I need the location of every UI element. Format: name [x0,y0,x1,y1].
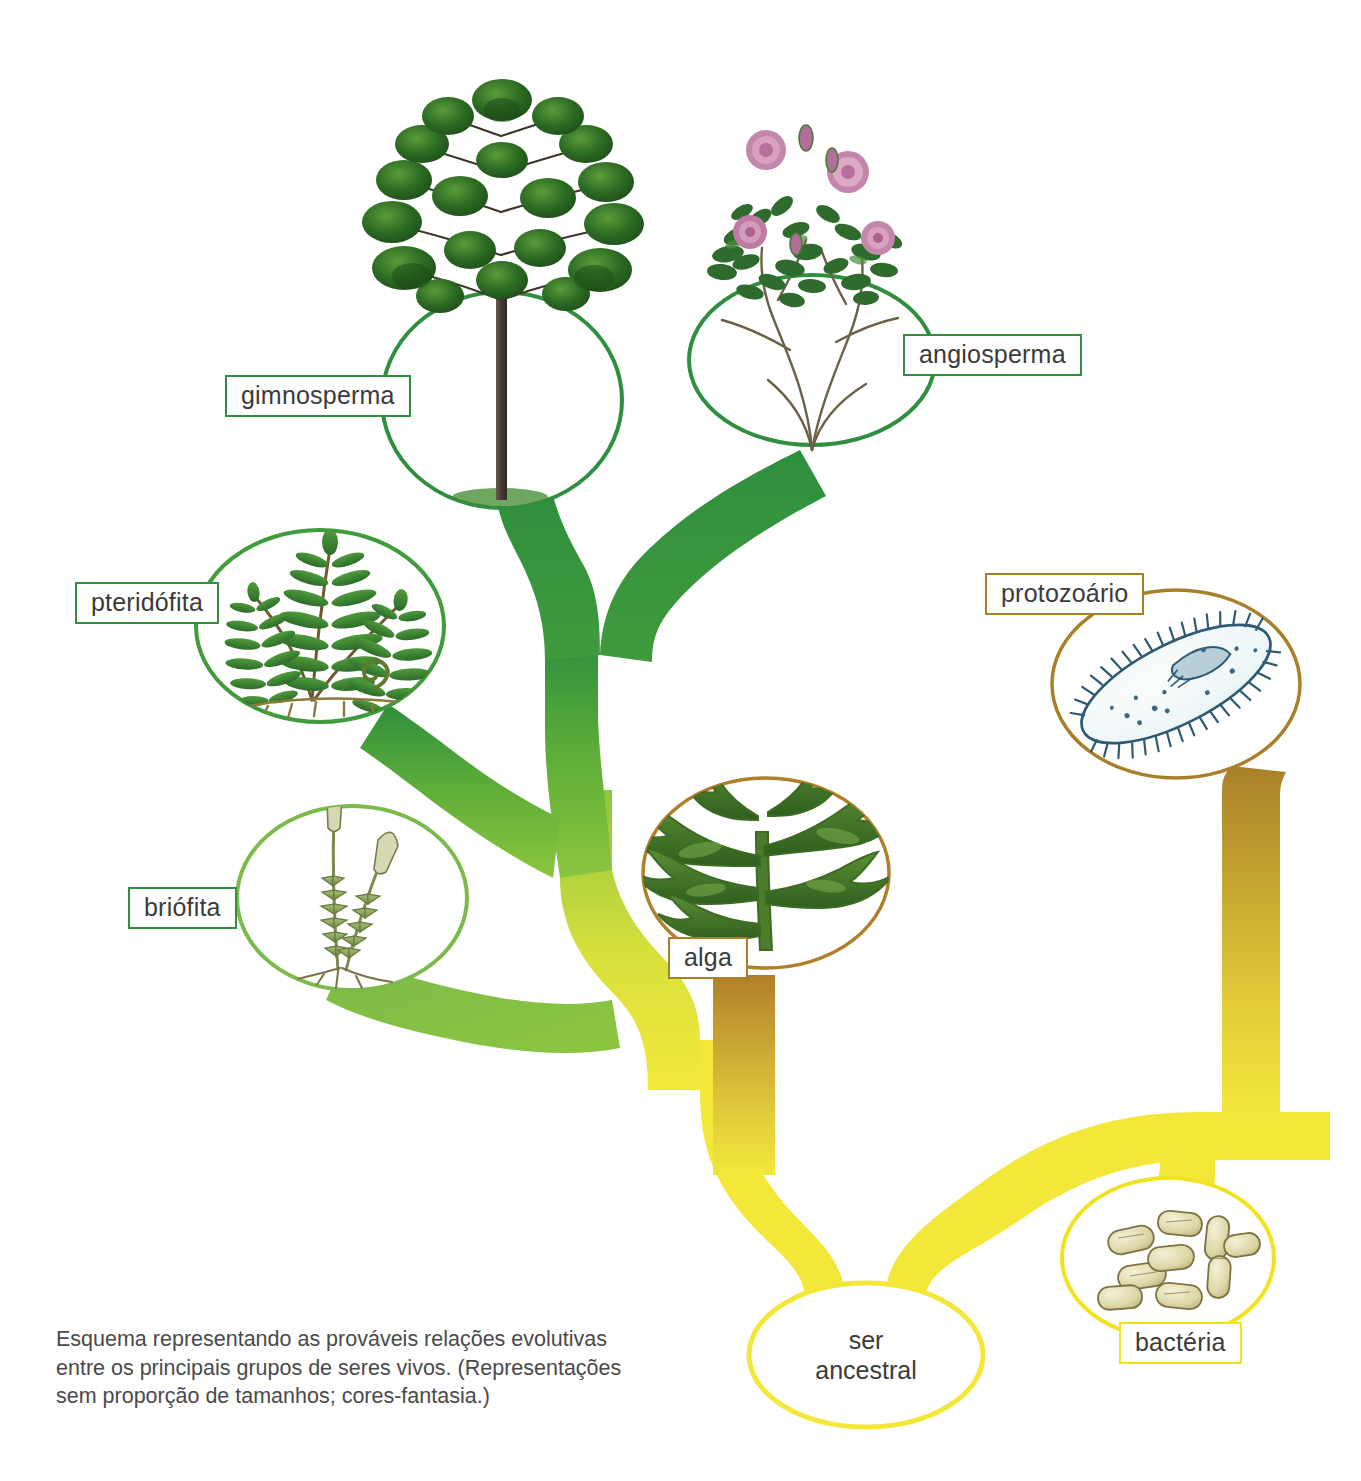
algae-illustration [620,754,906,950]
label-briofita[interactable]: briófita [128,887,237,929]
rose-bush-illustration [706,125,905,450]
bacteria-illustration [1097,1210,1261,1311]
evolution-tree-diagram: gimnosperma angiosperma pteridófita brió… [0,0,1361,1481]
label-alga[interactable]: alga [668,937,748,979]
rose-flowers [733,125,895,255]
diagram-caption: Esquema representando as prováveis relaç… [56,1325,656,1411]
label-protozoario[interactable]: protozoário [985,573,1144,615]
moss-leaves-right [338,894,380,958]
fern-illustration [214,529,445,722]
label-ser-ancestral: ser ancestral [786,1326,946,1385]
illustration-layer [0,0,1361,1481]
paramecium-illustration [1056,587,1296,780]
moss-illustration [286,786,398,988]
label-pteridofita[interactable]: pteridófita [75,582,219,624]
conifer-araucaria-illustration [362,79,644,506]
label-bacteria[interactable]: bactéria [1119,1322,1242,1364]
label-gimnosperma[interactable]: gimnosperma [225,375,411,417]
moss-capsules [327,786,398,874]
label-angiosperma[interactable]: angiosperma [903,334,1082,376]
